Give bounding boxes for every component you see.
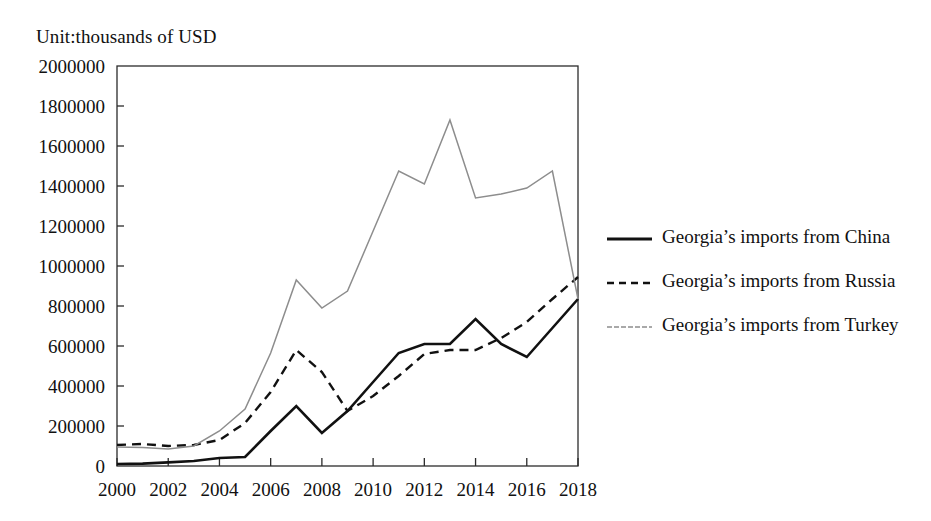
x-tick-label: 2006 — [252, 479, 290, 500]
axis-frame — [117, 66, 578, 466]
chart-legend: Georgia’s imports from ChinaGeorgia’s im… — [607, 226, 899, 335]
x-tick-label: 2018 — [559, 479, 597, 500]
legend-label-turkey: Georgia’s imports from Turkey — [662, 314, 899, 335]
unit-annotation: Unit:thousands of USD — [36, 26, 217, 48]
y-tick-label: 1800000 — [39, 96, 106, 117]
y-tick-label: 2000000 — [39, 56, 106, 77]
x-tick-label: 2016 — [508, 479, 546, 500]
y-axis-tick-labels: 0200000400000600000800000100000012000001… — [39, 56, 106, 477]
y-tick-label: 0 — [96, 456, 106, 477]
series-line-russia — [117, 277, 578, 446]
series-line-turkey — [117, 120, 578, 449]
y-tick-label: 400000 — [48, 376, 105, 397]
x-tick-label: 2000 — [98, 479, 136, 500]
line-chart: 0200000400000600000800000100000012000001… — [0, 0, 931, 521]
y-tick-label: 600000 — [48, 336, 105, 357]
series-line-china — [117, 299, 578, 464]
x-tick-label: 2010 — [354, 479, 392, 500]
x-tick-label: 2004 — [200, 479, 239, 500]
legend-label-russia: Georgia’s imports from Russia — [662, 270, 896, 291]
y-tick-label: 800000 — [48, 296, 105, 317]
y-tick-label: 1200000 — [39, 216, 106, 237]
y-tick-label: 1600000 — [39, 136, 106, 157]
x-axis-tick-labels: 2000200220042006200820102012201420162018 — [98, 479, 597, 500]
legend-label-china: Georgia’s imports from China — [662, 226, 891, 247]
y-tick-label: 1400000 — [39, 176, 106, 197]
x-tick-label: 2002 — [149, 479, 187, 500]
x-tick-label: 2012 — [405, 479, 443, 500]
y-tick-label: 200000 — [48, 416, 105, 437]
chart-figure: Unit:thousands of USD 020000040000060000… — [0, 0, 931, 521]
y-tick-label: 1000000 — [39, 256, 106, 277]
x-tick-label: 2014 — [457, 479, 496, 500]
plot-border — [117, 66, 578, 466]
data-series-group — [117, 120, 578, 464]
x-tick-label: 2008 — [303, 479, 341, 500]
